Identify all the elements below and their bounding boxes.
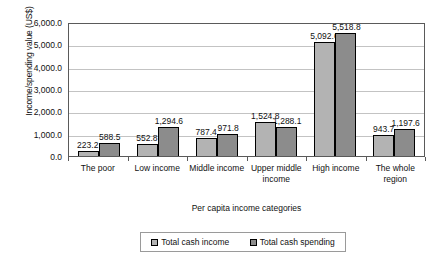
x-axis-tick [306,157,307,161]
x-axis-tick [187,157,188,161]
bar-group: 5,092.65,518.8 [306,24,365,156]
bar-group: 787.4971.8 [187,24,246,156]
x-axis-category-label: Upper middle income [247,163,307,184]
bar-group: 1,524.81,288.1 [247,24,306,156]
bar-chart: Income/spending value (US$) 0.01,000.02,… [0,0,447,267]
bar-total-cash-spending[interactable] [335,33,356,156]
x-axis-category-label: Middle income [187,163,247,184]
y-axis-tick-label: 1,000.0 [34,131,62,140]
legend-item-total-cash-spending: Total cash spending [250,237,335,247]
bar-group: 223.2588.5 [69,24,128,156]
x-axis-category-label: Low income [128,163,188,184]
legend-item-total-cash-income: Total cash income [151,237,229,247]
x-axis-title: Per capita income categories [68,203,425,213]
legend-swatch-icon [250,239,257,246]
bar-total-cash-spending[interactable] [158,127,179,156]
bar-pair [69,24,128,156]
bar-total-cash-income[interactable] [314,42,335,156]
x-axis-category-label: High income [306,163,366,184]
x-axis-category-label: The poor [68,163,128,184]
bar-total-cash-spending[interactable] [217,134,238,156]
bar-total-cash-income[interactable] [78,151,99,156]
bar-group: 552.81,294.6 [128,24,187,156]
y-axis-tick-label: 3,000.0 [34,86,62,95]
legend-swatch-icon [151,239,158,246]
bar-pair [306,24,365,156]
x-axis-ticks [68,157,425,161]
bar-group: 943.71,197.6 [365,24,424,156]
y-axis-tick-label: 4,000.0 [34,64,62,73]
bar-total-cash-income[interactable] [137,144,158,156]
x-axis-tick [128,157,129,161]
bar-pair [187,24,246,156]
y-axis-tick-label: 2,000.0 [34,108,62,117]
bar-total-cash-income[interactable] [373,135,394,156]
bar-total-cash-spending[interactable] [394,129,415,156]
bar-pair [247,24,306,156]
bar-total-cash-income[interactable] [196,138,217,156]
bar-total-cash-spending[interactable] [99,143,120,156]
y-axis-tick-label: 5,000.0 [34,41,62,50]
x-axis-category-label: The whole region [366,163,426,184]
plot-area: 223.2588.5552.81,294.6787.4971.81,524.81… [68,23,425,157]
bar-total-cash-spending[interactable] [276,127,297,156]
chart-legend: Total cash income Total cash spending [140,232,346,252]
y-axis-tick-label: 0.0 [50,153,62,162]
y-axis-tick-label: 6,000.0 [34,19,62,28]
y-axis-tick-labels: 0.01,000.02,000.03,000.04,000.05,000.06,… [24,23,65,157]
bar-pair [128,24,187,156]
bar-total-cash-income[interactable] [255,122,276,156]
x-axis-category-labels: The poorLow incomeMiddle incomeUpper mid… [68,163,425,184]
legend-label: Total cash spending [260,237,335,247]
bar-pair [365,24,424,156]
legend-label: Total cash income [161,237,229,247]
x-axis-tick [425,157,426,161]
x-axis-tick [247,157,248,161]
x-axis-tick [68,157,69,161]
bar-groups: 223.2588.5552.81,294.6787.4971.81,524.81… [69,24,424,156]
x-axis-tick [366,157,367,161]
